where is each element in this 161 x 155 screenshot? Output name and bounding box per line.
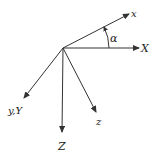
axis-x-label: x bbox=[131, 8, 137, 19]
axes-group bbox=[24, 14, 139, 132]
labels-group: xXy,YZz bbox=[7, 8, 150, 153]
axis-z-arrow bbox=[63, 48, 96, 112]
angle-alpha-label: α bbox=[110, 32, 118, 45]
coordinate-axes-diagram: xXy,YZz α bbox=[0, 0, 161, 155]
axis-z-label: z bbox=[95, 116, 102, 127]
axis-yY-label: y,Y bbox=[7, 105, 24, 116]
axis-yY-arrow bbox=[24, 48, 63, 98]
axis-X-label: X bbox=[140, 42, 150, 55]
angle-arc bbox=[104, 27, 109, 48]
axis-Z-label: Z bbox=[57, 140, 66, 153]
axis-Z-arrow bbox=[62, 48, 63, 132]
axis-x-arrow bbox=[63, 14, 129, 48]
